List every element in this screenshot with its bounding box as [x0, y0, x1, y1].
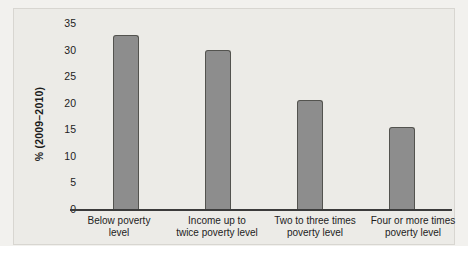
bar[interactable]: [389, 127, 415, 209]
x-axis-category-label: Income up totwice poverty level: [168, 215, 266, 239]
x-axis-category-label-line: level: [70, 227, 168, 239]
bar-slot: [264, 23, 356, 209]
x-axis-category-label-line: Income up to: [168, 215, 266, 227]
x-axis-category-labels: Below povertylevelIncome up totwice pove…: [70, 215, 462, 249]
chart-panel: % (2009–2010) 05101520253035 Below pover…: [13, 8, 455, 245]
x-axis-category-label: Two to three timespoverty level: [266, 215, 364, 239]
y-axis-title-text: % (2009–2010): [33, 87, 45, 161]
x-axis-category-label-line: Two to three times: [266, 215, 364, 227]
bar-series: [80, 23, 448, 209]
x-axis-baseline: [70, 209, 452, 211]
y-axis-tick-label: 10: [50, 151, 76, 162]
y-axis-tick-label: 35: [50, 18, 76, 29]
y-axis-tick-label: 15: [50, 124, 76, 135]
chart-screenshot: % (2009–2010) 05101520253035 Below pover…: [0, 0, 468, 256]
y-axis-tick-label: 5: [50, 177, 76, 188]
x-axis-category-label: Four or more timespoverty level: [364, 215, 462, 239]
y-axis-tick-label: 30: [50, 44, 76, 55]
y-axis-title: % (2009–2010): [28, 39, 50, 209]
y-axis-tick-label: 25: [50, 71, 76, 82]
bar-slot: [80, 23, 172, 209]
bar[interactable]: [205, 50, 231, 209]
y-axis-tick-label: 20: [50, 97, 76, 108]
bar[interactable]: [113, 35, 139, 209]
x-axis-category-label-line: Below poverty: [70, 215, 168, 227]
x-axis-category-label-line: poverty level: [364, 227, 462, 239]
bar-slot: [356, 23, 448, 209]
x-axis-category-label-line: twice poverty level: [168, 227, 266, 239]
bar[interactable]: [297, 100, 323, 209]
x-axis-category-label-line: poverty level: [266, 227, 364, 239]
x-axis-category-label: Below povertylevel: [70, 215, 168, 239]
x-axis-category-label-line: Four or more times: [364, 215, 462, 227]
plot-area: [80, 23, 448, 209]
bottom-white-strip: [0, 246, 468, 256]
bar-slot: [172, 23, 264, 209]
